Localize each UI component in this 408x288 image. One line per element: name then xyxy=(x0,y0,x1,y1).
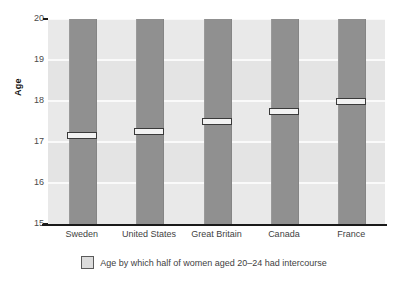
value-marker xyxy=(269,108,299,115)
y-axis-title: Age xyxy=(13,78,23,96)
value-marker xyxy=(134,128,164,135)
y-axis-tick-label: 20 xyxy=(4,14,44,23)
legend-label: Age by which half of women aged 20–24 ha… xyxy=(100,258,327,268)
plot-area xyxy=(48,19,385,224)
y-axis-tick-label: 17 xyxy=(4,137,44,146)
chart-legend: Age by which half of women aged 20–24 ha… xyxy=(0,256,408,269)
y-axis-ticks: 151617181920 xyxy=(0,0,44,288)
y-axis-tick-label: 19 xyxy=(4,55,44,64)
bar xyxy=(338,19,366,224)
value-marker xyxy=(336,98,366,105)
legend-swatch-icon xyxy=(81,256,94,269)
y-axis-tick-label: 16 xyxy=(4,178,44,187)
bar xyxy=(271,19,299,224)
y-axis-tick-label: 15 xyxy=(4,219,44,228)
x-axis-tick-label: France xyxy=(291,229,408,239)
bar xyxy=(69,19,97,224)
value-marker xyxy=(202,118,232,125)
bar xyxy=(136,19,164,224)
y-axis-tick-label: 18 xyxy=(4,96,44,105)
x-axis-line xyxy=(42,224,387,226)
chart-figure: 151617181920 Age SwedenUnited StatesGrea… xyxy=(0,0,408,288)
value-marker xyxy=(67,132,97,139)
